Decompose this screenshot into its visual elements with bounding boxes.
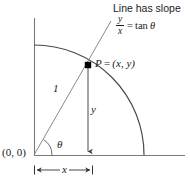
point-p-marker <box>85 62 91 68</box>
theta-label: θ <box>57 139 62 150</box>
slope-equation: y x = tan θ <box>116 15 155 36</box>
theta-symbol-equation: θ <box>150 20 155 31</box>
horizontal-leg-label: x <box>60 164 69 175</box>
equation-right-side: = tan θ <box>124 20 155 31</box>
diagram-canvas <box>0 0 190 181</box>
fraction-numerator: y <box>117 15 123 25</box>
vertical-leg-label: y <box>91 104 96 115</box>
point-p-coordinates: (x, y) <box>112 57 135 69</box>
theta-angle-arc <box>44 140 52 155</box>
origin-label: (0, 0) <box>2 147 26 158</box>
radius-label: 1 <box>53 83 59 94</box>
tangent-function: tan <box>135 20 148 31</box>
slope-caption: Line has slope <box>113 3 181 14</box>
point-p-label: P = (x, y) <box>95 58 135 69</box>
point-p-name: P <box>95 57 102 69</box>
trigonometry-figure: Line has slope y x = tan θ P = (x, y) 1 … <box>0 0 190 181</box>
slope-line <box>34 21 111 155</box>
slope-fraction: y x <box>116 15 124 36</box>
fraction-denominator: x <box>117 26 123 36</box>
